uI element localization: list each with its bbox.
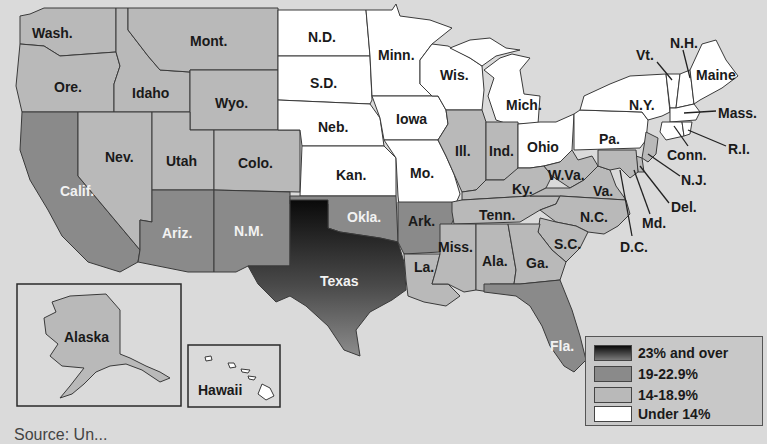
label-nj: N.J. <box>681 172 707 188</box>
legend-swatch-under-14 <box>594 406 632 422</box>
label-alaska: Alaska <box>64 329 109 345</box>
label-ala: Ala. <box>482 253 508 269</box>
label-nm: N.M. <box>234 223 264 239</box>
label-miss: Miss. <box>438 239 473 255</box>
label-mich: Mich. <box>506 97 542 113</box>
label-wis: Wis. <box>440 67 469 83</box>
label-calif: Calif. <box>60 183 94 199</box>
label-ohio: Ohio <box>527 139 559 155</box>
label-utah: Utah <box>166 153 197 169</box>
label-ky: Ky. <box>512 181 533 197</box>
label-wva: W.Va. <box>548 167 585 183</box>
label-neb: Neb. <box>318 119 348 135</box>
label-la: La. <box>414 259 434 275</box>
label-sd: S.D. <box>310 75 337 91</box>
legend-label: 14-18.9% <box>638 387 698 403</box>
label-nh: N.H. <box>670 35 698 51</box>
legend-swatch-23-plus <box>594 345 632 361</box>
state-conn[interactable] <box>660 122 684 140</box>
label-ariz: Ariz. <box>162 225 192 241</box>
label-mont: Mont. <box>190 33 227 49</box>
legend-label: 23% and over <box>638 345 728 361</box>
label-kan: Kan. <box>336 167 366 183</box>
legend-item-23-plus: 23% and over <box>594 344 728 362</box>
label-mo: Mo. <box>410 165 434 181</box>
legend-swatch-14-18-9 <box>594 387 632 403</box>
label-texas: Texas <box>320 273 359 289</box>
label-vt: Vt. <box>636 47 654 63</box>
legend: 23% and over 19-22.9% 14-18.9% Under 14% <box>585 336 763 426</box>
legend-label: 19-22.9% <box>638 366 698 382</box>
label-pa: Pa. <box>599 131 620 147</box>
label-ri: R.I. <box>728 141 750 157</box>
label-mass: Mass. <box>718 105 757 121</box>
label-idaho: Idaho <box>132 85 169 101</box>
label-ark: Ark. <box>408 213 435 229</box>
label-minn: Minn. <box>378 47 415 63</box>
label-nd: N.D. <box>308 29 336 45</box>
label-ga: Ga. <box>526 255 549 271</box>
label-md: Md. <box>642 215 666 231</box>
label-fla: Fla. <box>550 338 574 354</box>
label-okla: Okla. <box>347 209 381 225</box>
label-ore: Ore. <box>54 79 82 95</box>
state-alaska[interactable] <box>44 294 170 398</box>
source-caption: Source: Un... <box>14 426 107 444</box>
label-hawaii: Hawaii <box>198 382 242 398</box>
label-va: Va. <box>593 183 613 199</box>
state-ri[interactable] <box>682 122 692 136</box>
label-ill: Ill. <box>455 143 471 159</box>
label-iowa: Iowa <box>396 111 427 127</box>
legend-label: Under 14% <box>638 406 710 422</box>
label-colo: Colo. <box>238 155 273 171</box>
leader-ri <box>688 130 726 146</box>
label-conn: Conn. <box>667 147 707 163</box>
legend-item-14-18-9: 14-18.9% <box>594 386 698 404</box>
state-fla[interactable] <box>484 280 586 372</box>
label-ind: Ind. <box>489 143 514 159</box>
label-dc: D.C. <box>620 239 648 255</box>
legend-item-under-14: Under 14% <box>594 405 710 423</box>
legend-swatch-19-22-9 <box>594 366 632 382</box>
label-tenn: Tenn. <box>479 207 515 223</box>
legend-item-19-22-9: 19-22.9% <box>594 365 698 383</box>
label-ny: N.Y. <box>629 97 655 113</box>
label-nc: N.C. <box>580 209 608 225</box>
label-del: Del. <box>671 199 697 215</box>
label-wash: Wash. <box>32 25 73 41</box>
label-maine: Maine <box>696 67 736 83</box>
label-nev: Nev. <box>105 149 134 165</box>
label-wyo: Wyo. <box>215 95 248 111</box>
label-sc: S.C. <box>554 236 581 252</box>
